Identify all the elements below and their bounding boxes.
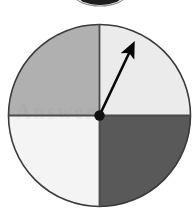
center-hub-dot — [94, 110, 104, 120]
spinner-figure: Answer — [0, 0, 195, 219]
spinner-diagram-canvas — [0, 0, 195, 219]
